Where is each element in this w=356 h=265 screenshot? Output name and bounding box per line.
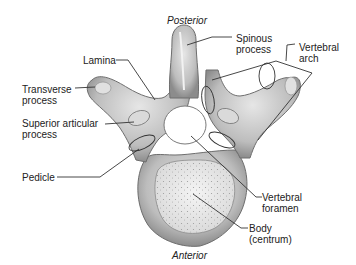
label-lamina: Lamina — [83, 55, 116, 66]
vertebral-body — [138, 150, 247, 246]
orientation-posterior-label: Posterior — [167, 15, 207, 26]
label-pedicle: Pedicle — [22, 172, 55, 183]
label-superior-articular-process: Superior articular process — [22, 118, 98, 140]
vertebral-foramen — [164, 106, 206, 144]
label-vertebral-arch: Vertebral arch — [299, 42, 339, 64]
label-vertebral-foramen: Vertebral foramen — [262, 192, 302, 214]
label-body-centrum: Body (centrum) — [249, 223, 292, 245]
spinous-process — [169, 25, 198, 98]
orientation-anterior-label: Anterior — [172, 250, 207, 261]
label-transverse-process: Transverse process — [22, 84, 72, 106]
label-spinous-process: Spinous process — [236, 33, 272, 55]
right-arch — [205, 70, 300, 158]
